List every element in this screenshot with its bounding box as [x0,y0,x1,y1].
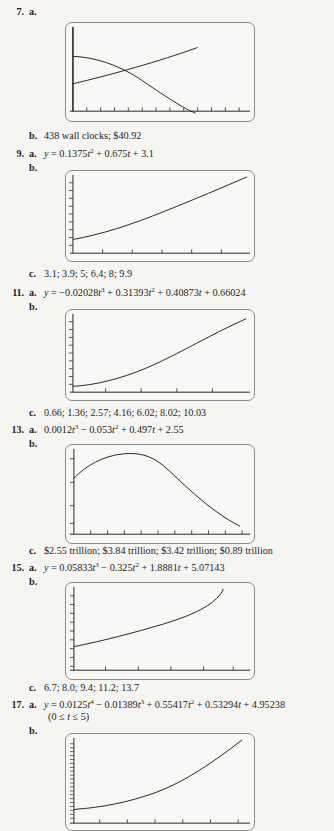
graph-13-x-ticks [91,530,242,534]
exercise-17: 17. a. y = 0.0125t4 − 0.01389t3 + 0.5541… [0,699,334,737]
exercise-11-part-a-label: a. [24,287,43,299]
exercise-15-part-c-text: 6.7; 8.0; 9.4; 11.2; 13.7 [43,682,334,694]
exercise-11-number: 11. [0,287,24,299]
graph-9-plot [66,171,254,261]
exercise-17-part-a-domain-row: (0 ≤ t ≤ 5) [0,711,334,723]
graph-13-curve [74,453,240,526]
exercise-7-part-b: b. 438 wall clocks; $40.92 [0,130,334,142]
graph-9-curve [73,177,247,240]
exercise-17-part-a-label: a. [24,699,43,711]
exercise-13-part-a-row: 13. a. 0.0012t3 − 0.053t2 + 0.497t + 2.5… [0,424,334,436]
graph-15-y-ticks [70,596,74,667]
exercise-15-part-b-label: b. [24,576,43,588]
exercise-9-part-a-label: a. [24,148,43,160]
graph-11-curve [73,319,246,387]
exercise-17-part-a-row: 17. a. y = 0.0125t4 − 0.01389t3 + 0.5541… [0,699,334,711]
graph-13-y-ticks [70,459,74,524]
exercise-9-part-c-text: 3.1; 3.9; 5; 6.4; 8; 9.9 [43,268,334,280]
exercise-7-part-a-label: a. [24,6,43,18]
graph-9-y-ticks [69,183,73,246]
exercise-13-part-a-label: a. [24,424,43,436]
exercise-11-part-c-label: c. [24,407,43,419]
exercise-13-number: 13. [0,424,24,436]
graph-15-curve [74,589,223,647]
graph-11-y-ticks [69,322,73,385]
graph-screen-7 [65,22,255,122]
graph-7-plot [66,23,254,121]
exercise-9-part-b-label: b. [24,162,43,174]
exercise-13-part-a-text: 0.0012t3 − 0.053t2 + 0.497t + 2.55 [43,424,334,436]
graph-15-x-ticks [106,666,234,670]
graph-17-plot [66,734,254,830]
graph-9-x-ticks [103,249,222,253]
exercise-13-part-c-label: c. [24,545,43,557]
exercise-15-part-a-label: a. [24,562,43,574]
exercise-7-part-b-label: b. [24,130,43,142]
exercise-9-part-a-row: 9. a. y = 0.1375t2 + 0.675t + 3.1 [0,148,334,160]
graph-screen-9 [65,170,255,262]
exercise-11-part-a-row: 11. a. y = −0.02028t3 + 0.31393t2 + 0.40… [0,287,334,299]
exercise-7-part-b-text: 438 wall clocks; $40.92 [43,130,334,142]
graph-screen-15 [65,582,255,680]
exercise-7-part-a-row: 7. a. [0,6,334,18]
exercise-15-part-a-row: 15. a. y = 0.05833t3 − 0.325t2 + 1.8881t… [0,562,334,574]
graph-17-curve [74,740,242,810]
exercise-11-part-c-text: 0.66; 1.36; 2.57; 4.16; 6.02; 8.02; 10.0… [43,407,334,419]
exercise-17-domain-text: (0 ≤ t ≤ 5) [43,711,334,723]
exercise-11-part-b-label: b. [24,301,43,313]
exercise-15-number: 15. [0,562,24,574]
exercise-11-part-a-text: y = −0.02028t3 + 0.31393t2 + 0.40873t + … [43,287,334,299]
exercise-15-part-c-label: c. [24,682,43,694]
exercise-13-part-b-label: b. [24,438,43,450]
graph-13-plot [66,445,254,543]
exercise-17-part-a-text: y = 0.0125t4 − 0.01389t3 + 0.55417t2 + 0… [43,699,334,711]
graph-7-curve-decreasing [73,56,196,113]
graph-screen-17 [65,733,255,831]
exercise-13-part-c-text: $2.55 trillion; $3.84 trillion; $3.42 tr… [43,545,334,557]
exercise-11-part-c: c. 0.66; 1.36; 2.57; 4.16; 6.02; 8.02; 1… [0,407,334,419]
graph-7-curve-increasing [73,48,198,84]
graph-11-plot [66,310,254,400]
exercise-7-number: 7. [0,6,24,18]
exercise-13-part-c: c. $2.55 trillion; $3.84 trillion; $3.42… [0,545,334,557]
exercise-15-part-a-text: y = 0.05833t3 − 0.325t2 + 1.8881t + 5.07… [43,562,334,574]
graph-screen-11 [65,309,255,401]
exercise-17-number: 17. [0,699,24,711]
graph-15-plot [66,583,254,679]
exercise-9-number: 9. [0,148,24,160]
exercise-9-part-a-text: y = 0.1375t2 + 0.675t + 3.1 [43,148,334,160]
graph-screen-13 [65,444,255,544]
exercise-7: 7. a. [0,6,334,18]
graph-17-x-ticks [100,819,239,823]
exercise-15-part-c: c. 6.7; 8.0; 9.4; 11.2; 13.7 [0,682,334,694]
graph-7-x-ticks [87,107,239,111]
exercise-9-part-c: c. 3.1; 3.9; 5; 6.4; 8; 9.9 [0,268,334,280]
exercise-17-part-b-label: b. [24,725,43,737]
graph-11-x-ticks [106,388,213,392]
graph-17-y-ticks [70,744,74,818]
exercise-9-part-c-label: c. [24,268,43,280]
